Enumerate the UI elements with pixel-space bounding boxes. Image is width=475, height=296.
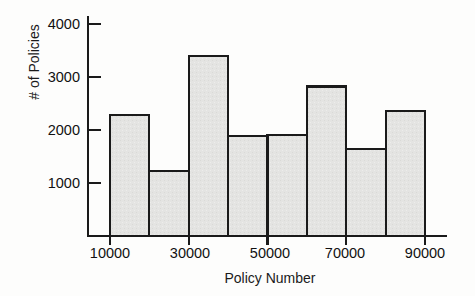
- bar-60000-70000: [307, 87, 346, 236]
- bar-40000-50000: [228, 136, 267, 236]
- bar-70000-80000: [346, 149, 385, 236]
- bar-10000-20000: [110, 115, 149, 236]
- histogram-figure: # of Policies 4000 3000 2000 1000 10000 …: [0, 0, 475, 296]
- bar-50000-60000: [268, 135, 307, 236]
- bar-30000-40000: [189, 56, 228, 236]
- bar-20000-30000: [149, 171, 188, 236]
- bar-80000-90000: [386, 111, 425, 236]
- plot-area: [0, 0, 475, 296]
- bar-group: [110, 56, 425, 236]
